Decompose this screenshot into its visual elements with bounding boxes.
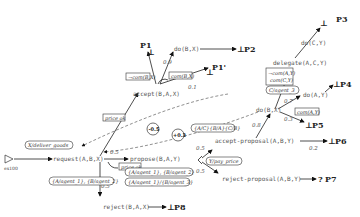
cond-agent-bind-1: {A/agent_1}, {B/agent_2} bbox=[49, 177, 119, 185]
prob-accept-P1prime: 0.1 bbox=[188, 84, 197, 90]
svg-text:{A/agent_1}/{B/agent_3}: {A/agent_1}/{B/agent_3} bbox=[128, 179, 193, 186]
cond-com-cy: com(C,Y) bbox=[270, 77, 293, 83]
node-accept-proposal: accept-proposal(A,B,Y) bbox=[215, 137, 294, 145]
start-label: ex100 bbox=[4, 166, 18, 171]
cond-com-ay: com(A,Y) bbox=[295, 108, 320, 115]
terminal-P5: ⊥ P5 bbox=[305, 120, 324, 130]
weight-minus: -0.5 bbox=[147, 123, 160, 135]
svg-text:-0.5: -0.5 bbox=[149, 126, 160, 132]
svg-text:P6: P6 bbox=[335, 136, 347, 146]
cond-y-pay-price: Y/pay_price bbox=[206, 157, 242, 165]
svg-text:P5: P5 bbox=[312, 120, 324, 130]
weight-plus: +0.3 bbox=[172, 129, 187, 141]
prob-request-propose: 0.5 bbox=[110, 149, 119, 155]
svg-text:com(A,Y): com(A,Y) bbox=[297, 109, 320, 115]
svg-text:P8: P8 bbox=[174, 202, 186, 212]
and-arc-request bbox=[108, 162, 118, 168]
svg-text:P7: P7 bbox=[325, 174, 337, 184]
cond-not-com-ay: ¬com(A,Y) bbox=[268, 70, 295, 76]
prob-do-doAY: 0.7 bbox=[284, 98, 293, 104]
xor-angle-propose bbox=[198, 156, 202, 164]
cond-c-agent: C/agent_3 bbox=[266, 86, 299, 94]
svg-text:{A/C}{B/A}{C/B}: {A/C}{B/A}{C/B} bbox=[194, 125, 240, 131]
svg-text:X/deliver_goods: X/deliver_goods bbox=[27, 142, 69, 149]
svg-text:P2: P2 bbox=[244, 44, 256, 54]
prob-propose-accept-proposal: 0.5 bbox=[196, 145, 205, 151]
terminal-P8: ⊥ P8 bbox=[167, 202, 186, 212]
prob-accept-proposal-do: 0.8 bbox=[252, 122, 261, 128]
cond-not-com-bx: ¬com(B,X) bbox=[126, 73, 156, 80]
node-request: request(A,B,X) bbox=[53, 155, 104, 163]
svg-text:com(B,X): com(B,X) bbox=[171, 73, 194, 79]
cond-agent-bind-2: {A/agent_1}, {B/agent_2} bbox=[125, 168, 195, 176]
prob-accept-do: 0.9 bbox=[163, 59, 172, 65]
unknown-icon: ? bbox=[318, 174, 323, 184]
node-do-bx-top: do(B,X) bbox=[174, 45, 199, 52]
terminal-P1prime: ⊥ P1' bbox=[206, 62, 226, 77]
cond-substitution: {A/C}{B/A}{C/B} bbox=[191, 124, 240, 132]
terminal-P3: ⊥ P3 bbox=[320, 14, 348, 28]
terminal-P1: P1 ⊥ bbox=[140, 40, 155, 57]
node-reject-proposal: reject-proposal(A,B,Y) bbox=[222, 175, 301, 183]
node-reject: reject(B,A,X) bbox=[103, 203, 150, 211]
node-propose: propose(B,A,Y) bbox=[130, 155, 181, 163]
cond-com-bx: com(B,X) bbox=[169, 72, 194, 79]
edge-request-accept bbox=[100, 93, 138, 156]
protocol-diagram: ex100 request(A,B,X) propose(B,A,Y) acce… bbox=[0, 0, 360, 217]
svg-text:¬com(B,X): ¬com(B,X) bbox=[128, 74, 156, 80]
svg-text:P3: P3 bbox=[336, 14, 348, 24]
cond-deliver-goods: X/deliver_goods bbox=[25, 141, 73, 149]
cond-price-ok-1: price ok bbox=[103, 114, 126, 122]
svg-text:{A/agent_1}, {B/agent_2}: {A/agent_1}, {B/agent_2} bbox=[128, 169, 195, 176]
terminal-P6: ⊥ P6 bbox=[328, 136, 347, 146]
bottom-icon: ⊥ bbox=[320, 18, 328, 28]
svg-text:P1': P1' bbox=[212, 62, 226, 72]
prob-accept-proposal-P6: 0.2 bbox=[309, 145, 318, 151]
start-triangle-icon bbox=[5, 155, 13, 163]
node-accept: accept(B,A,X) bbox=[133, 90, 180, 98]
node-do-ay: do(A,Y) bbox=[303, 91, 328, 98]
cond-agent-bind-3: {A/agent_1}/{B/agent_3} bbox=[125, 178, 193, 186]
bottom-icon: ⊥ bbox=[147, 47, 155, 57]
node-do-cy: do(C,Y) bbox=[301, 39, 326, 46]
terminal-P2: ⊥ P2 bbox=[237, 44, 256, 54]
prob-do-P5: 0.3 bbox=[284, 116, 293, 122]
svg-text:P4: P4 bbox=[340, 79, 352, 89]
terminal-P4: ⊥ P4 bbox=[333, 79, 352, 89]
node-do-bx-right: do(B,X) bbox=[256, 106, 281, 113]
svg-text:+0.3: +0.3 bbox=[173, 132, 187, 138]
svg-text:Y/pay_price: Y/pay_price bbox=[209, 158, 238, 165]
node-delegate: delegate(A,C,Y) bbox=[273, 59, 327, 67]
terminal-P7: ? P7 bbox=[318, 174, 337, 184]
svg-text:C/agent_3: C/agent_3 bbox=[269, 87, 295, 94]
prob-propose-reject-proposal: 0.5 bbox=[196, 168, 205, 174]
svg-text:{A/agent_1}, {B/agent_2}: {A/agent_1}, {B/agent_2} bbox=[52, 178, 119, 185]
cond-com-box-delegate: ¬com(A,Y) com(C,Y) bbox=[266, 68, 295, 85]
start-state: ex100 bbox=[4, 155, 18, 171]
svg-text:price ok: price ok bbox=[105, 115, 126, 122]
